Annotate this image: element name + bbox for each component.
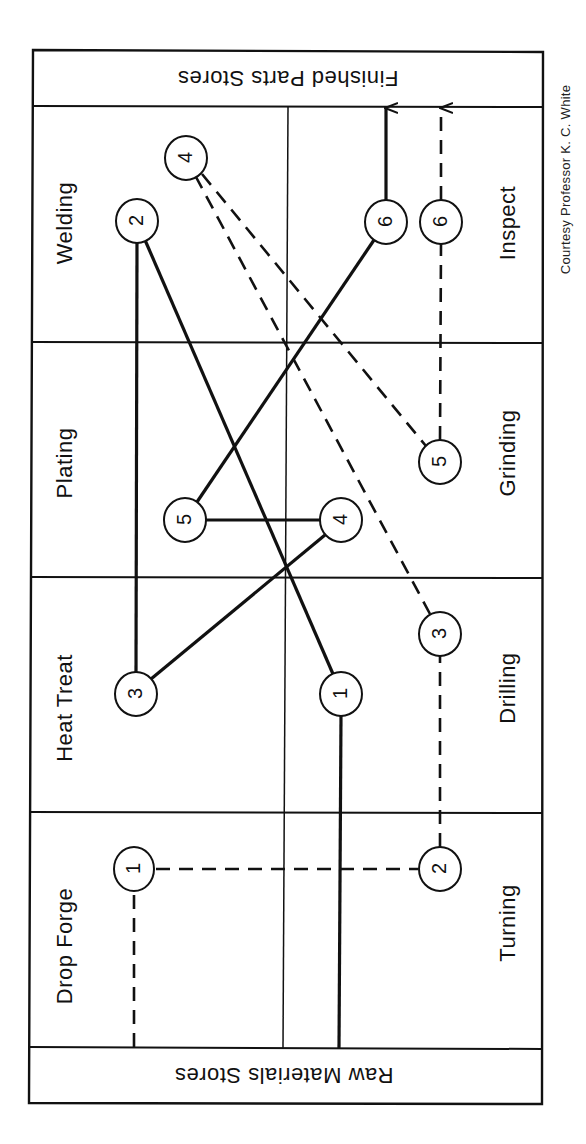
solid-node-6-label: 6 [374, 216, 397, 227]
dept-label-grinding: Grinding [495, 383, 521, 523]
bottom-band-divider [29, 1047, 542, 1049]
dashed-node-6-label: 6 [429, 216, 452, 227]
credit-text: Courtesy Professor K. C. White [558, 50, 573, 310]
dept-label-welding: Welding [52, 153, 78, 293]
dashed-node-4-label: 4 [174, 152, 197, 163]
dashed-node-2-label: 2 [428, 863, 451, 874]
dashed-node-3-label: 3 [428, 628, 451, 639]
solid-nodes [115, 199, 407, 716]
dept-divider-3 [30, 812, 542, 813]
dept-label-drilling: Drilling [495, 618, 521, 758]
flow-diagram: 1 2 3 4 5 6 1 2 3 4 5 6 Finished Parts S… [0, 0, 586, 1144]
solid-node-1-label: 1 [329, 688, 352, 699]
solid-node-4-label: 4 [329, 514, 352, 525]
top-band-divider [33, 106, 543, 107]
dept-label-plating: Plating [52, 393, 78, 533]
raw-materials-stores-label: Raw Materials Stores [134, 1062, 434, 1088]
solid-node-3-label: 3 [124, 688, 147, 699]
dept-label-drop-forge: Drop Forge [52, 876, 78, 1016]
finished-parts-stores-label: Finished Parts Stores [138, 65, 438, 91]
dashed-node-5-label: 5 [428, 456, 451, 467]
dept-label-inspect: Inspect [495, 153, 521, 293]
solid-node-2-label: 2 [125, 215, 148, 226]
dept-label-heat-treat: Heat Treat [52, 638, 78, 778]
dashed-node-1-label: 1 [122, 863, 145, 874]
dept-label-turning: Turning [495, 853, 521, 993]
dept-divider-2 [31, 577, 543, 578]
solid-node-5-label: 5 [173, 514, 196, 525]
